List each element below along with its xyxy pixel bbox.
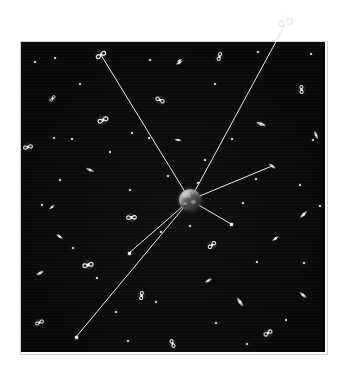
central-planet-icon xyxy=(179,189,201,211)
sightline-upper-right-outer xyxy=(190,25,285,200)
sightline-lower-left-long xyxy=(76,200,190,337)
sightline-right xyxy=(190,166,272,200)
sightline-upper-left xyxy=(101,55,190,200)
node-lower-left-short xyxy=(128,252,131,255)
sightline-lower-left-short xyxy=(129,200,190,253)
node-lower-left-long xyxy=(75,336,78,339)
node-lower-right xyxy=(230,223,233,226)
sightline-layer xyxy=(0,0,341,367)
figure-canvas xyxy=(0,0,341,367)
